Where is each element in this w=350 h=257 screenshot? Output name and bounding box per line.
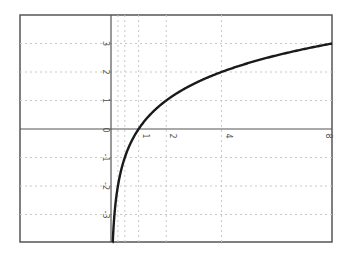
y-tick-label: -1: [101, 154, 110, 162]
y-tick-label: 1: [101, 98, 110, 103]
y-tick-label: -3: [101, 211, 110, 219]
x-tick-label: 2: [168, 133, 177, 138]
x-tick-label: 4: [224, 133, 233, 138]
y-tick-label: 3: [101, 41, 110, 46]
y-tick-label: 2: [101, 69, 110, 74]
y-tick-label: -2: [101, 182, 110, 190]
x-tick-label: 8: [324, 133, 333, 138]
origin-label: 0: [101, 127, 110, 132]
x-tick-label: 1: [141, 133, 150, 138]
log2-chart: 1248321-1-2-30: [0, 0, 350, 257]
